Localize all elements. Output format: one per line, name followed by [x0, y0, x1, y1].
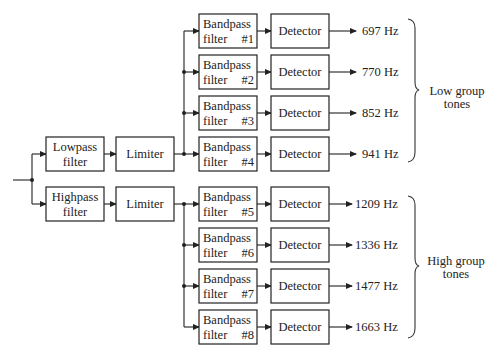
bandpass-8-number: #8 [242, 328, 255, 342]
bandpass-5-number: #5 [242, 205, 255, 219]
limiter-high-block: Limiter [116, 187, 174, 221]
detector-4-label: Detector [278, 147, 322, 161]
bandpass-3-number: #3 [242, 114, 255, 128]
limiter-low-label: Limiter [126, 147, 164, 161]
tone-941: 941 Hz [362, 147, 399, 161]
bandpass-1-label: Bandpass [203, 17, 251, 31]
lowpass-filter-block: Lowpass filter [46, 137, 104, 171]
bandpass-4-label: Bandpass [203, 140, 251, 154]
high-group-label-line1: High group [427, 254, 484, 268]
low-group-label-line1: Low group [429, 84, 484, 98]
channel-4: Bandpass filter #4 Detector 941 Hz [199, 137, 399, 171]
lowpass-label-line2: filter [63, 155, 88, 169]
bandpass-2-label: Bandpass [203, 58, 251, 72]
bandpass-8-filter-word: filter [203, 328, 228, 342]
low-group-label-line2: tones [444, 97, 471, 111]
limiter-low-block: Limiter [116, 137, 174, 171]
detector-2-label: Detector [278, 65, 322, 79]
high-group-label-line2: tones [443, 267, 470, 281]
high-group-brace: High group tones [408, 196, 485, 338]
channel-2: Bandpass filter #2 Detector 770 Hz [199, 55, 399, 89]
bandpass-2-number: #2 [242, 73, 255, 87]
high-group-bus [174, 202, 199, 327]
channel-6: Bandpass filter #6 Detector 1336 Hz [199, 228, 398, 262]
low-group-brace: Low group tones [408, 19, 485, 162]
channel-7: Bandpass filter #7 Detector 1477 Hz [199, 269, 398, 303]
bandpass-1-number: #1 [242, 32, 255, 46]
bandpass-5-filter-word: filter [203, 205, 228, 219]
tone-1336: 1336 Hz [355, 238, 398, 252]
bandpass-6-number: #6 [242, 246, 255, 260]
detector-7-label: Detector [278, 279, 322, 293]
tone-1477: 1477 Hz [355, 279, 398, 293]
bandpass-7-label: Bandpass [203, 272, 251, 286]
tone-697: 697 Hz [362, 24, 399, 38]
bandpass-3-label: Bandpass [203, 99, 251, 113]
dtmf-decoder-diagram: Lowpass filter Limiter Highpass filter L… [0, 0, 491, 360]
bandpass-3-filter-word: filter [203, 114, 228, 128]
detector-3-label: Detector [278, 106, 322, 120]
channel-3: Bandpass filter #3 Detector 852 Hz [199, 96, 399, 130]
channel-5: Bandpass filter #5 Detector 1209 Hz [199, 187, 398, 221]
bandpass-7-filter-word: filter [203, 287, 228, 301]
input-split [13, 154, 46, 204]
lowpass-label-line1: Lowpass [53, 140, 98, 154]
highpass-label-line1: Highpass [52, 190, 99, 204]
highpass-filter-block: Highpass filter [46, 187, 104, 221]
detector-5-label: Detector [278, 197, 322, 211]
tone-1663: 1663 Hz [355, 320, 398, 334]
tone-852: 852 Hz [362, 106, 399, 120]
tone-1209: 1209 Hz [355, 197, 398, 211]
tone-770: 770 Hz [362, 65, 399, 79]
bandpass-4-filter-word: filter [203, 155, 228, 169]
low-group-bus [174, 31, 199, 156]
detector-1-label: Detector [278, 24, 322, 38]
bandpass-6-filter-word: filter [203, 246, 228, 260]
limiter-high-label: Limiter [126, 197, 164, 211]
detector-8-label: Detector [278, 320, 322, 334]
highpass-label-line2: filter [63, 205, 88, 219]
bandpass-6-label: Bandpass [203, 231, 251, 245]
bandpass-5-label: Bandpass [203, 190, 251, 204]
channel-1: Bandpass filter #1 Detector 697 Hz [199, 14, 399, 48]
bandpass-7-number: #7 [242, 287, 255, 301]
bandpass-8-label: Bandpass [203, 313, 251, 327]
detector-6-label: Detector [278, 238, 322, 252]
channel-8: Bandpass filter #8 Detector 1663 Hz [199, 310, 398, 344]
bandpass-2-filter-word: filter [203, 73, 228, 87]
bandpass-4-number: #4 [242, 155, 255, 169]
bandpass-1-filter-word: filter [203, 32, 228, 46]
